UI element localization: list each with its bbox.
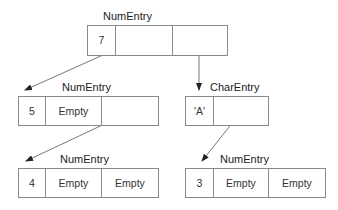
- node-numentry-4: NumEntry 4 Empty Empty: [19, 153, 159, 198]
- cell-value: Empty: [59, 177, 90, 189]
- cell-value: Empty: [282, 177, 313, 189]
- node-type-label: NumEntry: [220, 153, 269, 165]
- cell-value: 5: [29, 105, 35, 117]
- cell-value: 4: [29, 177, 35, 189]
- node-type-label: NumEntry: [103, 10, 152, 22]
- node-numentry-7: NumEntry 7: [88, 10, 228, 56]
- cell-value: 7: [99, 34, 105, 46]
- cell-value: Empty: [59, 105, 90, 117]
- cell-value: 3: [197, 177, 203, 189]
- cell-value: 'A': [194, 105, 205, 117]
- linked-list-diagram: NumEntry 7 NumEntry 5 Empty CharEntry 'A…: [0, 0, 338, 210]
- node-type-label: CharEntry: [210, 81, 260, 93]
- node-numentry-5: NumEntry 5 Empty: [19, 81, 159, 126]
- node-type-label: NumEntry: [62, 81, 111, 93]
- cell-value: Empty: [226, 177, 257, 189]
- cell-value: Empty: [115, 177, 146, 189]
- node-numentry-3: NumEntry 3 Empty Empty: [186, 153, 326, 198]
- node-type-label: NumEntry: [60, 153, 109, 165]
- node-charentry-a: CharEntry 'A': [186, 81, 269, 126]
